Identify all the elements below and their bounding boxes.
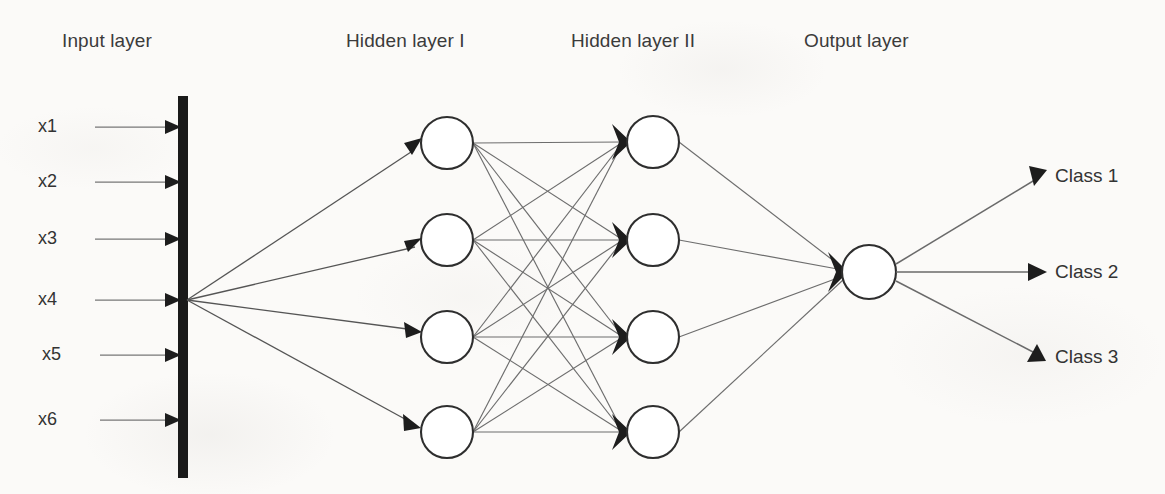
edge-bus-h1-4 xyxy=(187,300,421,431)
edge-bus-h1-2 xyxy=(187,238,422,300)
hidden1-nodes-group xyxy=(421,117,473,458)
edges-input-to-hidden1 xyxy=(187,138,422,431)
hidden1-node-4 xyxy=(421,406,473,458)
input-arrow-x4 xyxy=(95,293,181,307)
input-arrow-x3 xyxy=(95,232,181,246)
hidden2-node-2 xyxy=(627,214,679,266)
input-arrow-x1 xyxy=(95,120,181,134)
hidden1-node-3 xyxy=(421,311,473,363)
hidden2-nodes-group xyxy=(627,116,679,458)
network-graphic xyxy=(0,0,1165,494)
arrowheads-hidden2 xyxy=(612,124,631,450)
edge-bus-h1-1 xyxy=(187,138,422,300)
diagram-canvas: Input layer Hidden layer I Hidden layer … xyxy=(0,0,1165,494)
hidden1-node-2 xyxy=(421,214,473,266)
hidden2-node-3 xyxy=(627,311,679,363)
edges-hidden1-to-hidden2 xyxy=(473,142,623,432)
hidden1-node-1 xyxy=(421,117,473,169)
edge-class-1 xyxy=(896,166,1047,264)
edge-class-2 xyxy=(896,263,1047,281)
edge-class-3 xyxy=(896,281,1046,362)
edges-hidden2-to-output xyxy=(679,142,843,432)
input-arrow-x2 xyxy=(95,175,181,189)
input-arrows-group xyxy=(95,120,181,427)
hidden2-node-1 xyxy=(627,116,679,168)
hidden2-node-4 xyxy=(627,406,679,458)
input-arrow-x5 xyxy=(100,348,181,362)
input-arrow-x6 xyxy=(100,413,181,427)
output-node-1 xyxy=(842,245,896,299)
edges-output-to-classes xyxy=(896,166,1047,362)
input-bus-bar-icon xyxy=(178,96,188,478)
